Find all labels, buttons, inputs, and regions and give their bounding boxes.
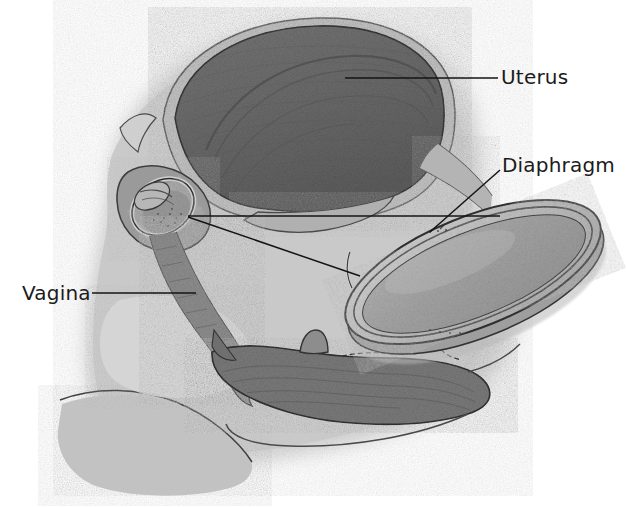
illustration-canvas: Uterus Diaphragm Vagina	[0, 0, 627, 507]
label-diaphragm: Diaphragm	[502, 155, 615, 175]
label-uterus: Uterus	[501, 67, 568, 87]
label-vagina: Vagina	[22, 283, 91, 303]
